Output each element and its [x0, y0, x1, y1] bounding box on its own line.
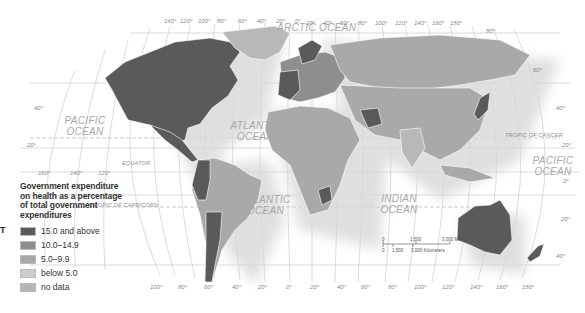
legend-swatch [20, 255, 36, 264]
latitude-label: 40° [556, 105, 565, 111]
latitude-label: 20° [562, 142, 571, 148]
label-indian-ocean: INDIAN OCEAN [374, 193, 424, 215]
label-tropic-of-cancer: TROPIC OF CANCER [505, 132, 563, 138]
pacific-longitude-label: 140° [70, 170, 82, 176]
legend-swatch [20, 241, 36, 250]
legend-item: 5.0–9.9 [20, 252, 130, 266]
legend-swatch [20, 227, 36, 236]
scale-bar-labels: 0 1,500 3,000 Miles 0 1,500 3,000 Kilome… [380, 232, 490, 256]
pacific-longitude-label: 120° [98, 170, 110, 176]
latitude-label: 20° [561, 216, 570, 222]
legend-item: no data [20, 280, 130, 294]
label-equator: EQUATOR [122, 160, 150, 166]
latitude-label: 0° [563, 178, 569, 184]
pacific-longitude-label: 160° [38, 170, 50, 176]
legend-item: below 5.0 [20, 266, 130, 280]
latitude-label: 40° [34, 105, 43, 111]
latitude-label: 60° [533, 67, 542, 73]
legend-swatch [20, 283, 36, 292]
cropped-side-text: T [0, 225, 6, 235]
latitude-label: 80° [486, 28, 495, 34]
legend-title: Government expenditure on health as a pe… [20, 182, 130, 220]
latitude-label: 40° [556, 253, 565, 259]
legend: Government expenditure on health as a pe… [20, 182, 130, 294]
label-atlantic-ocean-south: ATLANTIC OCEAN [238, 194, 293, 216]
label-pacific-ocean-east: PACIFIC OCEAN [528, 155, 578, 177]
new-zealand [527, 244, 544, 262]
latitude-label: 20° [27, 142, 36, 148]
label-atlantic-ocean-north: ATLANTIC OCEAN [228, 120, 283, 142]
label-pacific-ocean-west: PACIFIC OCEAN [60, 115, 110, 137]
legend-swatch [20, 269, 36, 278]
legend-item: 10.0–14.9 [20, 238, 130, 252]
legend-item: 15.0 and above [20, 224, 130, 238]
